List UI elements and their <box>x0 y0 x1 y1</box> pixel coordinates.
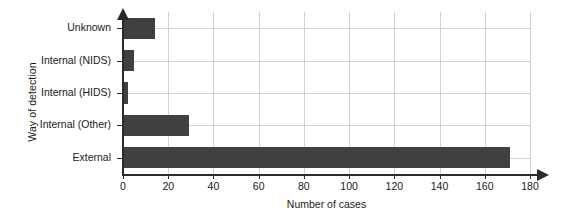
x-tick <box>440 174 441 179</box>
x-tick <box>123 174 124 179</box>
y-axis-arrow-icon <box>117 8 129 20</box>
y-tick <box>117 125 122 126</box>
y-tick <box>117 61 122 62</box>
bar <box>123 50 134 71</box>
x-tick <box>394 174 395 179</box>
plot-area <box>123 12 530 174</box>
x-tick <box>259 174 260 179</box>
gridline-vertical <box>530 12 531 174</box>
y-tick-label: Internal (NIDS) <box>41 54 111 66</box>
y-axis-title: Way of detection <box>26 32 38 172</box>
x-tick <box>485 174 486 179</box>
x-tick-label: 40 <box>193 180 233 192</box>
x-tick-label: 0 <box>103 180 143 192</box>
x-tick-label: 180 <box>510 180 550 192</box>
x-tick <box>304 174 305 179</box>
x-tick-label: 100 <box>329 180 369 192</box>
gridline-horizontal <box>123 28 530 29</box>
x-tick-label: 120 <box>374 180 414 192</box>
y-tick-label: Unknown <box>67 21 111 33</box>
x-tick-label: 140 <box>420 180 460 192</box>
bar-chart-figure: Way of detection Number of cases 0204060… <box>0 0 571 220</box>
bar <box>123 115 189 136</box>
y-tick <box>117 28 122 29</box>
x-tick <box>168 174 169 179</box>
y-axis-line <box>122 18 124 175</box>
x-tick <box>530 174 531 179</box>
gridline-horizontal <box>123 61 530 62</box>
x-tick-label: 20 <box>148 180 188 192</box>
gridline-horizontal <box>123 93 530 94</box>
x-axis-title: Number of cases <box>123 198 530 210</box>
x-tick-label: 60 <box>239 180 279 192</box>
y-tick-label: Internal (HIDS) <box>41 86 111 98</box>
y-tick <box>117 158 122 159</box>
x-tick-label: 80 <box>284 180 324 192</box>
y-tick <box>117 93 122 94</box>
x-tick-label: 160 <box>465 180 505 192</box>
y-tick-label: Internal (Other) <box>40 118 111 130</box>
y-tick-label: External <box>72 151 111 163</box>
bar <box>123 18 155 39</box>
x-axis-line <box>122 174 540 176</box>
x-tick <box>213 174 214 179</box>
x-tick <box>349 174 350 179</box>
bar <box>123 147 510 168</box>
